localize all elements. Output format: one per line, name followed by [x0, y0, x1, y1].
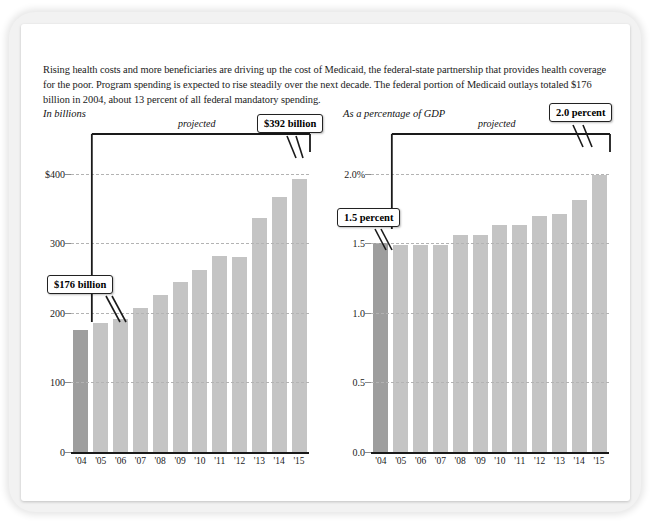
bar-column	[269, 153, 289, 452]
bar-y06	[413, 245, 428, 452]
x-tick-label: '04	[71, 456, 91, 466]
x-tick-label: '14	[569, 456, 589, 466]
left-gridline-400	[71, 174, 309, 175]
callout-right-end: 2.0 percent	[549, 103, 612, 122]
x-tick-label: '10	[490, 456, 510, 466]
bar-y10	[192, 270, 207, 452]
bar-column	[170, 153, 190, 452]
x-tick-label: '07	[130, 456, 150, 466]
bar-column	[230, 153, 250, 452]
left-tickdash-100	[65, 382, 71, 383]
x-tick-label: '12	[530, 456, 550, 466]
left-y-tick-label: 300	[50, 238, 65, 249]
left-y-tick-label: 200	[50, 307, 65, 318]
bar-column	[530, 153, 550, 452]
bar-column	[510, 153, 530, 452]
right-gridline-1	[371, 313, 609, 314]
callout-left-start: $176 billion	[47, 275, 113, 294]
bar-y13	[252, 218, 267, 452]
x-tick-label: '12	[230, 456, 250, 466]
right-tickdash-2	[365, 174, 371, 175]
bar-y09	[173, 282, 188, 452]
left-x-axis-labels: '04'05'06'07'08'09'10'11'12'13'14'15	[71, 456, 309, 466]
bar-y05	[393, 245, 408, 452]
bar-y15	[292, 179, 307, 452]
bar-y04	[73, 330, 88, 452]
right-tickdash-0.5	[365, 382, 371, 383]
bar-column	[490, 153, 510, 452]
right-x-axis-labels: '04'05'06'07'08'09'10'11'12'13'14'15	[371, 456, 609, 466]
bar-y14	[572, 200, 587, 452]
x-tick-label: '13	[249, 456, 269, 466]
bar-y07	[133, 308, 148, 452]
bar-column	[91, 153, 111, 452]
bar-column	[569, 153, 589, 452]
callout-right-start: 1.5 percent	[337, 208, 400, 227]
x-tick-label: '06	[111, 456, 131, 466]
x-tick-label: '14	[269, 456, 289, 466]
intro-paragraph: Rising health costs and more beneficiari…	[43, 63, 609, 107]
callout-left-end: $392 billion	[257, 114, 323, 133]
right-gridline-2	[371, 174, 609, 175]
right-bar-group	[371, 153, 609, 452]
left-tickdash-0	[65, 452, 71, 453]
x-tick-label: '15	[589, 456, 609, 466]
left-y-tick-label: 100	[50, 377, 65, 388]
x-tick-label: '10	[190, 456, 210, 466]
left-gridline-300	[71, 243, 309, 244]
right-gridline-0.5	[371, 382, 609, 383]
x-tick-label: '09	[470, 456, 490, 466]
right-tickdash-1	[365, 313, 371, 314]
bar-y09	[473, 235, 488, 452]
bar-y06	[113, 319, 128, 453]
left-plot-area: 0100200300$400	[71, 153, 309, 452]
bar-y14	[272, 197, 287, 452]
left-y-tick-label: 0	[60, 447, 65, 458]
x-tick-label: '11	[210, 456, 230, 466]
right-y-tick-label: 1.5	[353, 238, 366, 249]
bar-column	[549, 153, 569, 452]
left-chart-title: In billions	[43, 108, 86, 119]
left-gridline-100	[71, 382, 309, 383]
right-y-tick-label: 0.0	[353, 447, 366, 458]
bar-column	[589, 153, 609, 452]
bar-y12	[232, 257, 247, 452]
bar-column	[391, 153, 411, 452]
right-gridline-1.5	[371, 243, 609, 244]
bar-column	[371, 153, 391, 452]
bar-column	[249, 153, 269, 452]
bar-y10	[492, 225, 507, 452]
x-tick-label: '08	[450, 456, 470, 466]
bar-y04	[373, 243, 388, 452]
right-tickdash-1.5	[365, 243, 371, 244]
bar-y13	[552, 214, 567, 452]
bar-y05	[93, 323, 108, 452]
right-gridline-0	[371, 452, 609, 454]
bar-y11	[212, 256, 227, 452]
left-gridline-200	[71, 313, 309, 314]
left-y-tick-label: $400	[45, 168, 65, 179]
x-tick-label: '09	[170, 456, 190, 466]
bar-column	[470, 153, 490, 452]
bar-y11	[512, 225, 527, 452]
x-tick-label: '11	[510, 456, 530, 466]
bar-column	[210, 153, 230, 452]
bar-column	[430, 153, 450, 452]
x-tick-label: '13	[549, 456, 569, 466]
bar-column	[111, 153, 131, 452]
bar-column	[411, 153, 431, 452]
x-tick-label: '06	[411, 456, 431, 466]
x-tick-label: '08	[150, 456, 170, 466]
right-plot-area: 0.00.51.01.52.0%	[371, 153, 609, 452]
x-tick-label: '15	[289, 456, 309, 466]
bar-y08	[153, 295, 168, 452]
bar-column	[190, 153, 210, 452]
bar-column	[71, 153, 91, 452]
x-tick-label: '05	[391, 456, 411, 466]
right-y-tick-label: 2.0%	[344, 168, 365, 179]
right-y-tick-label: 1.0	[353, 307, 366, 318]
right-y-tick-label: 0.5	[353, 377, 366, 388]
right-chart-title: As a percentage of GDP	[343, 108, 445, 119]
bar-column	[289, 153, 309, 452]
chart-panel-gdp: As a percentage of GDP projected 0.00.51…	[333, 108, 633, 480]
